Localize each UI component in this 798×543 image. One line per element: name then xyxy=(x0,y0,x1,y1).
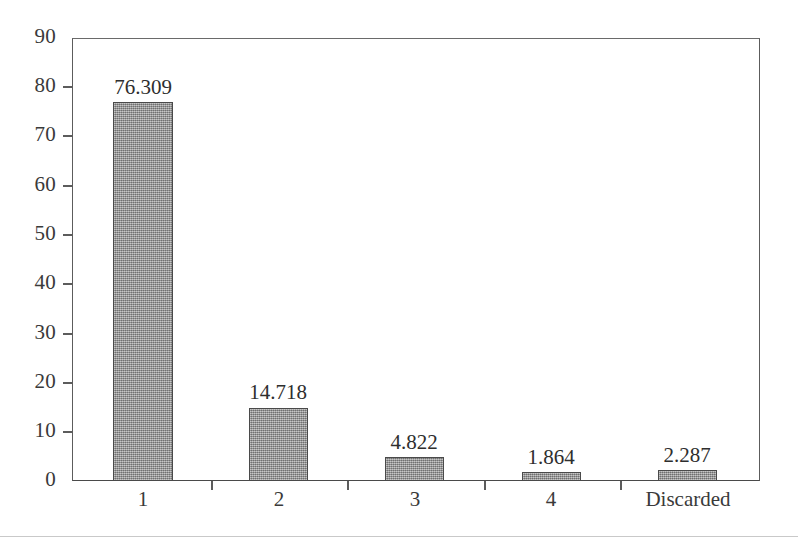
bar-series: 76.309 14.718 4.822 1.864 2.287 xyxy=(0,0,798,543)
bar-1 xyxy=(113,102,173,481)
x-tick-mark xyxy=(211,481,213,490)
page-edge-rule xyxy=(0,536,798,537)
x-tick-mark xyxy=(620,481,622,490)
x-category-label-discarded: Discarded xyxy=(645,487,730,511)
bar-value-label: 14.718 xyxy=(249,381,307,403)
x-tick-mark xyxy=(484,481,486,490)
x-tick-mark xyxy=(347,481,349,490)
x-category-label-2: 2 xyxy=(274,487,285,511)
bar-3 xyxy=(385,457,444,481)
bar-value-label: 76.309 xyxy=(114,76,172,98)
bar-4 xyxy=(522,472,581,481)
bar-value-label: 1.864 xyxy=(527,446,574,468)
bar-discarded xyxy=(658,470,717,481)
x-category-label-1: 1 xyxy=(138,487,149,511)
bar-2 xyxy=(249,408,308,481)
x-category-label-4: 4 xyxy=(546,487,557,511)
x-axis: 1 2 3 4 Discarded xyxy=(0,481,798,543)
bar-value-label: 4.822 xyxy=(390,431,437,453)
bar-chart-figure: 90 80 70 60 50 40 30 20 xyxy=(0,0,798,543)
x-category-label-3: 3 xyxy=(410,487,421,511)
bar-value-label: 2.287 xyxy=(663,444,710,466)
